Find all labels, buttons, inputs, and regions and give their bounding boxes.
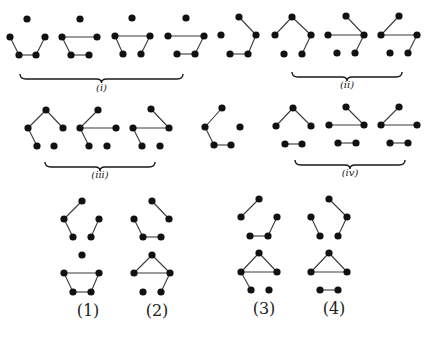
graph-edge [28, 110, 46, 128]
graph-vertex [191, 50, 198, 57]
graph-r2-g4 [201, 104, 243, 148]
graph-vertex [23, 15, 30, 22]
graph-r1-g5 [217, 13, 259, 57]
graph-edge [381, 107, 399, 125]
graph-vertex [244, 50, 251, 57]
graph-vertex [165, 124, 172, 131]
graph-vertex [166, 269, 173, 276]
graph-vertex [156, 142, 163, 149]
group-label: (ii) [340, 79, 354, 90]
graph-vertex [325, 195, 332, 202]
graph-edge [239, 17, 256, 35]
graph-vertex [138, 142, 145, 149]
graph-r1-g2 [58, 15, 100, 58]
graph-vertex [307, 122, 314, 129]
graph-vertex [298, 50, 305, 57]
graph-figure: (i)(ii)(iii)(iv) (1)(2)(3)(4) [0, 0, 436, 337]
graph-vertex [246, 232, 253, 239]
graph-edge [346, 107, 364, 125]
group-label: (i) [96, 82, 107, 93]
graph-vertex [252, 31, 259, 38]
graph-vertex [289, 104, 296, 111]
case-label: (1) [77, 301, 100, 320]
graph-vertex [386, 139, 393, 146]
group-label: (iv) [342, 167, 359, 178]
graph-vertex [226, 50, 233, 57]
graph-vertex [95, 269, 102, 276]
graph-vertex [69, 288, 76, 295]
graph-c2-top [130, 197, 172, 240]
graph-vertex [42, 106, 49, 113]
graph-r1-g6 [271, 13, 314, 57]
graph-vertex [78, 197, 85, 204]
graph-vertex [265, 286, 272, 293]
case-label: (4) [323, 299, 346, 318]
group-brace-iii: (iii) [45, 162, 155, 180]
graph-vertex [377, 31, 384, 38]
graph-vertex [165, 215, 172, 222]
graph-vertex [164, 32, 171, 39]
graph-vertex [264, 232, 271, 239]
graph-vertex [95, 215, 102, 222]
group-label: (iii) [91, 169, 108, 180]
graph-vertex [41, 33, 48, 40]
graph-vertex [343, 268, 350, 275]
graph-vertex [324, 31, 331, 38]
graph-vertex [280, 50, 287, 57]
graph-vertex [6, 33, 13, 40]
graph-vertex [148, 251, 155, 258]
graph-vertex [360, 121, 367, 128]
graph-vertex [404, 49, 411, 56]
graph-vertex [201, 123, 208, 130]
graph-vertex [78, 251, 85, 258]
graph-r2-g1 [24, 106, 66, 149]
graph-c1-bot [60, 251, 102, 295]
graph-c4-top [307, 195, 350, 239]
graph-vertex [255, 195, 262, 202]
graph-edge [205, 108, 222, 127]
graph-vertex [237, 213, 244, 220]
graph-edge [80, 110, 98, 128]
graph-c2-bot [130, 251, 173, 295]
graph-r2-g7 [377, 103, 420, 146]
graph-vertex [67, 51, 74, 58]
graph-vertex [93, 33, 100, 40]
graph-vertex [307, 268, 314, 275]
graph-vertex [210, 141, 217, 148]
graph-vertex [227, 141, 234, 148]
graph-c4-bot [307, 249, 350, 293]
graph-edge [151, 109, 169, 128]
graph-edge [275, 17, 292, 35]
graph-vertex [69, 233, 76, 240]
graph-vertex [333, 49, 340, 56]
case-label: (3) [253, 299, 276, 318]
graph-edge [152, 201, 169, 219]
graph-vertex [377, 121, 384, 128]
graph-edge [259, 253, 277, 272]
graph-edge [329, 199, 347, 217]
graph-r2-g3 [129, 105, 172, 149]
graph-vertex [60, 215, 67, 222]
graph-vertex [281, 140, 288, 147]
graph-vertex [129, 124, 136, 131]
graph-vertex [85, 51, 92, 58]
graph-vertex [146, 32, 153, 39]
graph-vertex [395, 103, 402, 110]
graph-vertex [76, 124, 83, 131]
graph-vertex [316, 232, 323, 239]
graph-r1-g1 [6, 15, 48, 58]
graph-vertex [273, 213, 280, 220]
graph-edge [292, 17, 311, 35]
graph-vertex [157, 233, 164, 240]
graph-vertex [32, 51, 39, 58]
graph-r2-g5 [272, 104, 314, 147]
graph-edge [241, 253, 259, 272]
graph-vertex [59, 124, 66, 131]
graph-vertex [298, 140, 305, 147]
graph-vertex [218, 104, 225, 111]
graph-vertex [325, 249, 332, 256]
graph-vertex [352, 139, 359, 146]
graph-vertex [413, 121, 420, 128]
graph-vertex [147, 105, 154, 112]
graph-vertex [343, 213, 350, 220]
